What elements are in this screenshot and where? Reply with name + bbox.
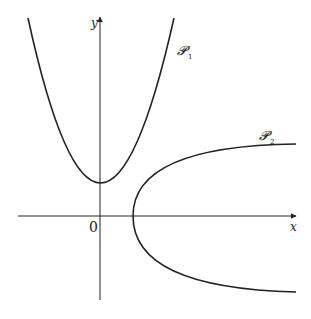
p2-subscript: 2 <box>270 138 274 146</box>
p1-subscript: 1 <box>188 53 192 61</box>
origin-label: 0 <box>89 219 98 235</box>
y-axis-label: y <box>90 16 98 30</box>
x-axis-label: x <box>290 220 297 234</box>
parabola-p2 <box>133 144 296 292</box>
diagram: y x 0 𝓟 1 𝓟 2 <box>0 0 311 319</box>
parabola-p1 <box>28 18 174 183</box>
